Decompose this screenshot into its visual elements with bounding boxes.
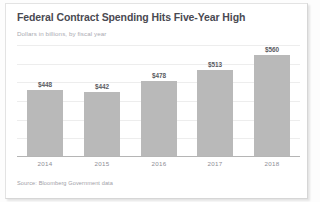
chart-subtitle: Dollars in billions, by fiscal year: [17, 30, 106, 37]
x-axis-label: 2018: [246, 160, 298, 167]
chart-title: Federal Contract Spending Hits Five-Year…: [17, 11, 245, 23]
x-axis-label: 2014: [19, 160, 71, 167]
bar[interactable]: [141, 81, 177, 157]
chart-card: Federal Contract Spending Hits Five-Year…: [5, 3, 308, 199]
bar[interactable]: [197, 70, 233, 157]
x-axis-label: 2015: [76, 160, 128, 167]
bar-group: $478: [141, 45, 177, 157]
bar-group: $560: [254, 45, 290, 157]
x-axis-label: 2017: [189, 160, 241, 167]
bar-value-label: $448: [19, 81, 71, 88]
bar-group: $448: [27, 45, 63, 157]
bar-value-label: $513: [189, 61, 241, 68]
chart-page: Federal Contract Spending Hits Five-Year…: [0, 0, 320, 215]
x-axis-line: [17, 156, 300, 157]
bar-value-label: $478: [133, 72, 185, 79]
x-axis-label: 2016: [133, 160, 185, 167]
bar[interactable]: [27, 90, 63, 157]
bar-value-label: $442: [76, 83, 128, 90]
bar[interactable]: [254, 55, 290, 157]
bar-group: $513: [197, 45, 233, 157]
bar[interactable]: [84, 92, 120, 157]
page-bottom-strip: [0, 202, 320, 215]
bar-group: $442: [84, 45, 120, 157]
plot-area: $448$442$478$513$560: [17, 45, 300, 157]
bar-value-label: $560: [246, 46, 298, 53]
source-note: Source: Bloomberg Government data: [17, 180, 113, 186]
x-axis-labels: 20142015201620172018: [17, 160, 300, 174]
